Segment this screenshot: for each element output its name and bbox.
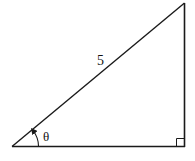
triangle-diagram: 5 θ <box>0 0 195 161</box>
triangle-figure <box>0 0 195 161</box>
right-angle-marker <box>177 139 185 147</box>
hypotenuse-label: 5 <box>97 54 104 68</box>
hypotenuse-side <box>12 3 185 147</box>
angle-theta-label: θ <box>43 130 49 143</box>
angle-arc-icon <box>33 131 39 147</box>
